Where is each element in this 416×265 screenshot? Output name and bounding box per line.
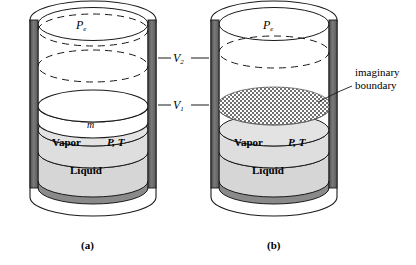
volume-1-label: V1: [173, 98, 184, 113]
cylinder-b-bore-rim: [219, 8, 329, 41]
cylinder-b-wall-right: [329, 20, 337, 188]
panel-b-graphics: [210, 1, 340, 216]
panel-a-graphics: [30, 1, 156, 216]
annotation-line-1: imaginary: [355, 66, 400, 79]
liquid-label-a: Liquid: [70, 164, 102, 176]
vapor-label-b: Vapor: [234, 136, 263, 148]
volume-2-label: V2: [173, 51, 184, 66]
cylinder-a-wall-left: [30, 20, 38, 188]
liquid-label-b: Liquid: [252, 164, 284, 176]
caption-a: (a): [81, 239, 94, 251]
diagram-svg: [0, 0, 416, 265]
cylinder-a-wall-right: [148, 20, 156, 188]
annotation-line-2: boundary: [355, 79, 400, 92]
external-pressure-label-a: Pe: [76, 18, 86, 33]
piston-mass-label-a: m: [87, 119, 94, 130]
cylinder-b-wall-left: [211, 20, 219, 188]
imaginary-boundary-annotation: imaginary boundary: [355, 66, 400, 91]
cylinder-a-bore-rim: [38, 8, 148, 41]
state-label-a: P, T: [107, 136, 125, 148]
figure-canvas: Pe m Vapor P, T Liquid (a) Pe Vapor P, T…: [0, 0, 416, 265]
caption-b: (b): [267, 239, 280, 251]
piston-a-top: [38, 90, 148, 122]
state-label-b: P, T: [288, 136, 306, 148]
vapor-label-a: Vapor: [52, 136, 81, 148]
external-pressure-label-b: Pe: [263, 18, 273, 33]
